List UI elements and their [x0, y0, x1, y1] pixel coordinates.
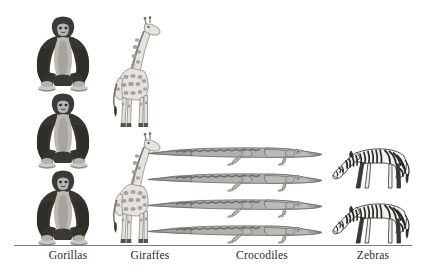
category-label-giraffes: Giraffes — [108, 249, 192, 261]
category-label-crocodiles: Crocodiles — [190, 249, 334, 261]
crocodile-icon — [146, 166, 324, 192]
category-label-zebras: Zebras — [330, 249, 416, 261]
chart-baseline — [14, 245, 412, 246]
gorilla-icon — [30, 170, 96, 247]
crocodile-icon — [146, 192, 324, 218]
pictogram-column-crocodiles — [146, 140, 324, 244]
giraffe-icon — [104, 14, 166, 130]
gorilla-icon — [30, 16, 96, 93]
pictogram-chart: Gorillas Giraffes Crocodiles Zebras — [0, 0, 428, 274]
crocodile-icon — [146, 140, 324, 166]
crocodile-icon — [146, 218, 324, 244]
zebra-icon — [330, 191, 414, 246]
pictogram-column-gorillas — [30, 16, 100, 247]
pictogram-column-zebras — [330, 136, 414, 246]
gorilla-icon — [30, 93, 96, 170]
category-label-gorillas: Gorillas — [20, 249, 116, 261]
zebra-icon — [330, 136, 414, 191]
